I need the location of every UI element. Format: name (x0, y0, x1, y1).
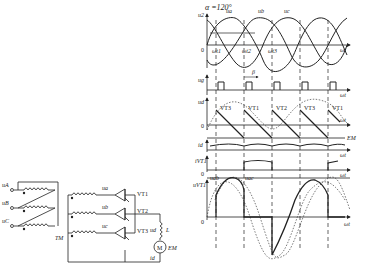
vt-label-4: VT3 (304, 105, 315, 111)
motor-label: M (157, 245, 163, 251)
vt2-symbol (115, 208, 129, 221)
p4-xlabel: ωt (340, 152, 346, 158)
wt3-label: ωt3 (268, 48, 277, 54)
uC-label: uC (2, 218, 10, 224)
uB-label: uB (2, 200, 9, 206)
primary-coil-b (24, 206, 55, 208)
gate-pulses (218, 82, 336, 90)
terminal-B (11, 207, 14, 210)
p2-xlabel: ωt (340, 92, 346, 98)
uc-curve (207, 18, 347, 68)
ua-circuit-label: ua (102, 185, 108, 191)
vt1-symbol (115, 189, 129, 202)
p6-origin: 0 (201, 219, 204, 225)
vt-label-5: VT1 (332, 105, 343, 111)
uc-label: uc (284, 8, 290, 14)
em-circuit-label: EM (167, 245, 178, 251)
firing-dashed-lines (216, 20, 328, 250)
waveform-panels (207, 14, 350, 259)
em-label: EM (346, 135, 357, 141)
vt3-symbol (115, 227, 129, 240)
ivt1-curve (244, 161, 338, 171)
vt-label-2: VT1 (248, 105, 259, 111)
p5-xlabel: ωt (340, 172, 346, 178)
ua-label: ua (226, 8, 232, 14)
ud-circuit-label: ud (150, 227, 157, 233)
ub-circuit-label: ub (102, 204, 108, 210)
uA-label: uA (2, 182, 9, 188)
vt-label-1: VT3 (220, 105, 231, 111)
secondary-coil-a (68, 193, 115, 195)
ivt1-label: iVT1 (195, 158, 207, 164)
wt1-label: ωt1 (212, 48, 221, 54)
p6-xlabel: ωt (344, 221, 350, 227)
id-circuit-label: id (150, 255, 156, 261)
p1-origin: 0 (201, 47, 204, 53)
ub-label: ub (258, 8, 264, 14)
uvt1-label: uVT1 (193, 182, 206, 188)
secondary-coil-b (68, 212, 115, 214)
inductor (160, 222, 162, 240)
uab-label: uab (210, 175, 219, 181)
primary-coil-a (24, 188, 55, 190)
primary-coil-c (24, 224, 55, 226)
vt2-label: VT2 (137, 208, 148, 214)
tm-label: TM (55, 235, 64, 241)
vt1-label: VT1 (137, 191, 148, 197)
ub-curve (207, 18, 347, 67)
p3-xlabel: ωt (340, 117, 346, 123)
ud-label: ud (198, 99, 205, 105)
vt-label-3: VT2 (276, 105, 287, 111)
uvt1-curve (216, 178, 345, 255)
terminal-A (11, 189, 14, 192)
terminal-C (11, 225, 14, 228)
p1-xlabel: ωt (340, 47, 346, 53)
uc-circuit-label: uc (102, 223, 108, 229)
p5-origin: 0 (201, 171, 204, 177)
beta-label: β (251, 69, 255, 75)
p3-origin: 0 (201, 123, 204, 129)
inductor-label: L (165, 227, 170, 233)
uac-label: uac (245, 175, 254, 181)
id-label: id (198, 142, 204, 148)
id-curve (210, 144, 345, 146)
ug-label: ug (198, 77, 204, 83)
wt2-label: ωt2 (242, 48, 251, 54)
rectifier-diagram: α =120° u2 ua ub uc 0 ωt1 ωt2 ωt3 ωt ug … (0, 0, 366, 272)
ud-curve (216, 110, 340, 138)
secondary-coil-c (68, 231, 115, 233)
u2-label: u2 (198, 12, 204, 18)
vt3-label: VT3 (137, 228, 148, 234)
